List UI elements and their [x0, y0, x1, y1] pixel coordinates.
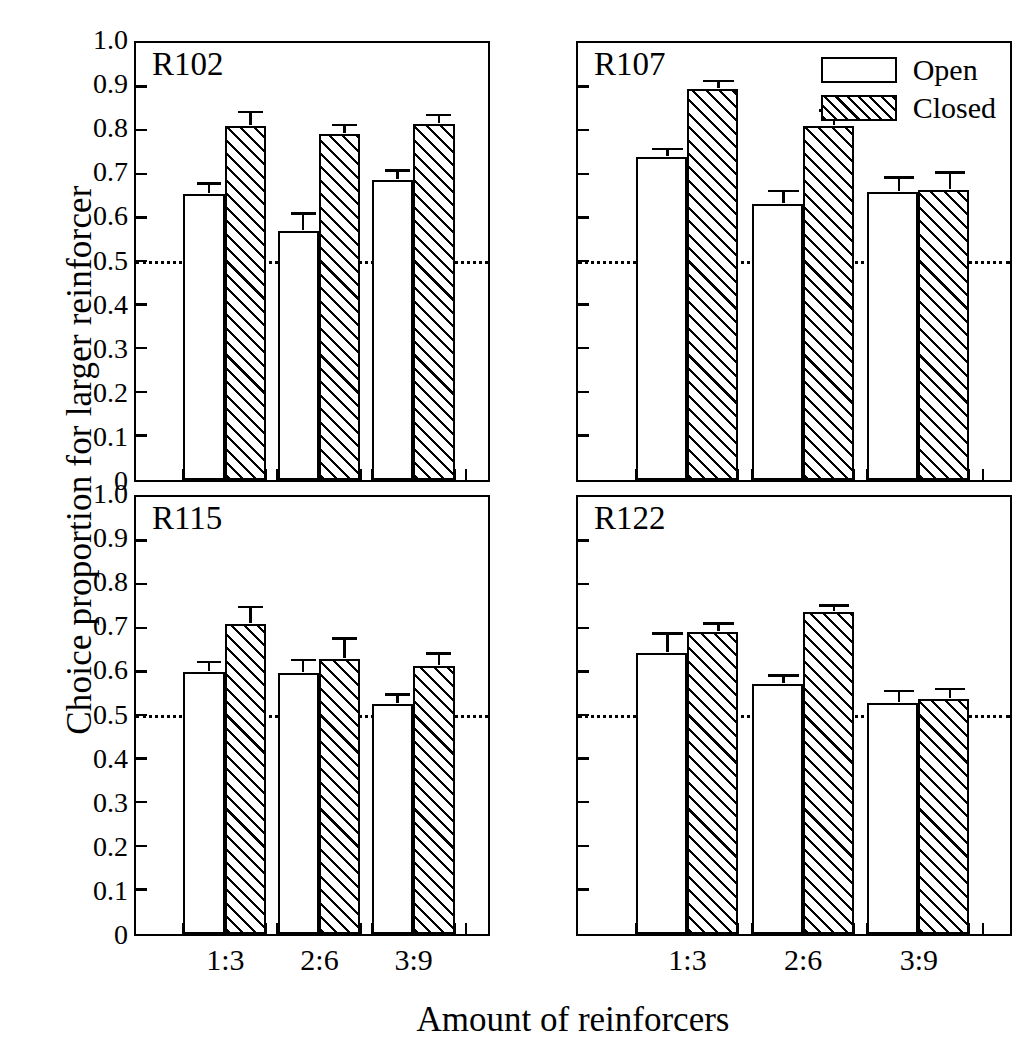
y-axis-tick [578, 627, 589, 630]
x-axis-tick [465, 923, 468, 934]
y-axis-tick [136, 888, 147, 891]
error-bar-cap [426, 114, 451, 117]
y-tick-label: 0.5 [58, 701, 128, 729]
bar-closed-3-9 [413, 666, 454, 934]
y-axis-tick [136, 801, 147, 804]
error-bar-cap [768, 674, 799, 677]
x-axis-tick [866, 923, 869, 934]
panel-r122: R122 [576, 495, 1012, 936]
error-bar-cap [884, 690, 915, 693]
y-axis-tick [578, 888, 589, 891]
x-axis-tick [751, 923, 754, 934]
error-bar-cap [332, 124, 357, 127]
y-tick-label: 0 [58, 921, 128, 949]
panel-r102: R102 [134, 41, 490, 482]
y-axis-tick [136, 303, 147, 306]
x-axis-title: Amount of reinforcers [134, 1000, 1012, 1040]
error-bar-cap [652, 632, 683, 635]
legend-label-closed: Closed [913, 90, 996, 126]
x-axis-tick [465, 469, 468, 480]
y-tick-label: 0.1 [58, 877, 128, 905]
x-axis-tick [371, 923, 374, 934]
y-axis-tick [578, 129, 589, 132]
x-axis-tick [982, 469, 985, 480]
y-axis-tick [136, 434, 147, 437]
x-axis-tick [182, 469, 185, 480]
bar-open-1-3 [183, 672, 224, 934]
y-axis-tick [136, 670, 147, 673]
bar-closed-1-3 [687, 632, 738, 934]
y-axis-tick [578, 173, 589, 176]
y-tick-label: 1.0 [58, 480, 128, 508]
y-axis-tick [578, 583, 589, 586]
bar-closed-3-9 [918, 699, 969, 934]
error-bar-stem [343, 637, 346, 658]
y-tick-label: 0.4 [58, 745, 128, 773]
legend-item-closed: Closed [821, 89, 996, 127]
panel-r107: R107 Open Closed [576, 41, 1012, 482]
error-bar-stem [666, 632, 669, 652]
y-axis-tick [578, 391, 589, 394]
error-bar-cap [819, 604, 850, 607]
error-bar-cap [935, 171, 966, 174]
bar-open-2-6 [278, 231, 319, 480]
y-axis-tick [578, 347, 589, 350]
x-axis-tick [453, 923, 456, 934]
error-bar-stem [302, 212, 305, 230]
x-axis-tick [371, 469, 374, 480]
bar-closed-1-3 [225, 126, 266, 480]
bar-open-3-9 [372, 180, 413, 480]
bar-closed-2-6 [803, 126, 854, 480]
x-tick-label: 1:3 [206, 944, 244, 976]
bar-open-1-3 [636, 653, 687, 934]
y-axis-tick [136, 173, 147, 176]
y-axis-tick [136, 216, 147, 219]
error-bar-cap [385, 169, 410, 172]
y-tick-label: 0.7 [58, 612, 128, 640]
bar-open-2-6 [752, 204, 803, 480]
x-axis-tick [737, 923, 740, 934]
x-axis-tick [968, 469, 971, 480]
y-tick-label: 0.8 [58, 568, 128, 596]
y-axis-tick [578, 216, 589, 219]
y-tick-label: 0.3 [58, 789, 128, 817]
x-tick-label: 3:9 [395, 944, 433, 976]
bar-open-3-9 [867, 192, 918, 480]
bar-closed-1-3 [225, 624, 266, 934]
y-axis-tick [578, 85, 589, 88]
error-bar-cap [238, 111, 263, 114]
panel-r107-label: R107 [594, 47, 666, 81]
bar-open-2-6 [278, 673, 319, 934]
y-axis-tick [578, 757, 589, 760]
bar-closed-2-6 [803, 612, 854, 934]
panel-r115-plot-area [136, 497, 488, 934]
panel-r115: R115 [134, 495, 490, 936]
bar-open-1-3 [183, 194, 224, 480]
y-axis-tick [136, 627, 147, 630]
error-bar-cap [291, 659, 316, 662]
x-axis-tick [276, 923, 279, 934]
error-bar-cap [385, 693, 410, 696]
y-axis-tick [136, 845, 147, 848]
bar-closed-1-3 [687, 89, 738, 480]
legend: Open Closed [821, 51, 996, 127]
x-tick-label: 1:3 [668, 944, 706, 976]
x-axis-tick [182, 923, 185, 934]
y-axis-tick [136, 85, 147, 88]
y-axis-tick [578, 434, 589, 437]
x-axis-tick [852, 469, 855, 480]
error-bar-cap [291, 212, 316, 215]
y-axis-tick [578, 801, 589, 804]
error-bar-stem [249, 606, 252, 623]
x-axis-tick [276, 469, 279, 480]
y-tick-label: 0.9 [58, 524, 128, 552]
x-tick-label: 2:6 [784, 944, 822, 976]
x-axis-tick [359, 469, 362, 480]
x-axis-tick [359, 923, 362, 934]
bar-closed-2-6 [319, 134, 360, 480]
figure-root: Choice proportion for larger reinforcer … [0, 0, 1034, 1057]
error-bar-cap [238, 606, 263, 609]
error-bar-cap [426, 652, 451, 655]
legend-item-open: Open [821, 51, 996, 89]
x-axis-tick [635, 469, 638, 480]
